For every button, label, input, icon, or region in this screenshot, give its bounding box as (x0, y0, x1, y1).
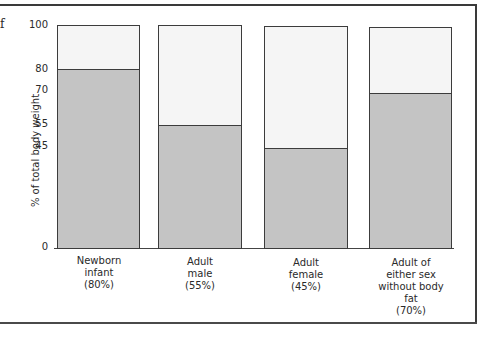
x-label-newborn-infant: Newborn infant (80%) (58, 255, 140, 291)
y-tick-0: 0 (18, 242, 48, 252)
bar-fill-adult-no-fat (370, 93, 451, 248)
x-label-adult-male: Adult male (55%) (159, 256, 241, 292)
bar-adult-female (264, 26, 348, 249)
frame-right-border (475, 4, 477, 324)
bar-adult-male (158, 25, 242, 249)
bar-adult-no-fat (369, 27, 452, 249)
bar-fill-newborn-infant (58, 69, 139, 248)
y-tick-45: 45 (18, 141, 48, 151)
y-tick-100: 100 (18, 20, 48, 30)
frame-top-border (0, 4, 477, 6)
y-tick-80: 80 (18, 64, 48, 74)
x-label-adult-no-fat: Adult of either sex without body fat (70… (366, 257, 456, 317)
bar-newborn-infant (57, 25, 140, 249)
frame-bottom-border (0, 322, 477, 324)
cropped-text-fragment: f (0, 17, 4, 31)
y-tick-70: 70 (18, 85, 48, 95)
bar-fill-adult-male (159, 125, 241, 248)
x-label-adult-female: Adult female (45%) (265, 257, 347, 293)
bar-fill-adult-female (265, 148, 347, 248)
y-tick-55: 55 (18, 119, 48, 129)
